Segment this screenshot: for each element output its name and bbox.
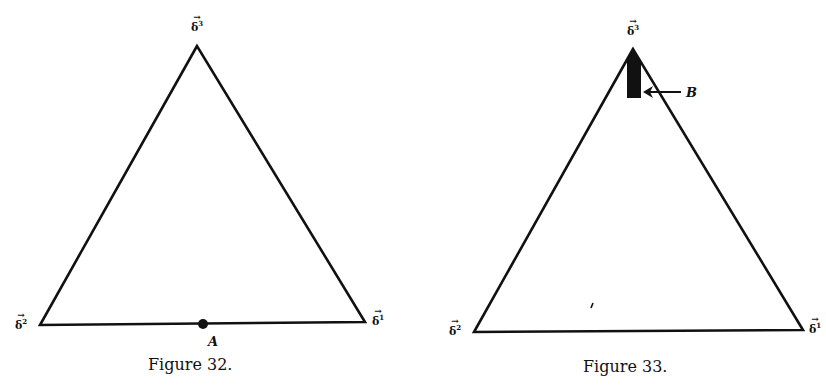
fig33-vertex-right-label: →δ1 — [805, 315, 825, 335]
figure-32-caption: Figure 32. — [148, 355, 232, 374]
stray-mark — [591, 303, 593, 308]
point-a-label: A — [208, 334, 218, 349]
fig32-vertex-right-label: →δ1 — [368, 307, 388, 327]
vertex-index: 1 — [379, 313, 384, 322]
fig33-vertex-left-label: →δ2 — [445, 317, 465, 337]
region-b-label: B — [686, 85, 697, 100]
vertex-index: 2 — [22, 317, 27, 326]
vertex-index: 3 — [198, 19, 203, 28]
fig32-vertex-left-label: →δ2 — [11, 311, 31, 331]
figure-32-triangle — [40, 46, 365, 325]
fig32-vertex-top-label: →δ3 — [187, 13, 207, 33]
vertex-index: 1 — [816, 321, 821, 330]
diagram-canvas — [0, 0, 826, 387]
figure-33-caption: Figure 33. — [583, 357, 667, 376]
point-a-marker — [198, 319, 208, 329]
vertex-index: 2 — [456, 323, 461, 332]
vertex-index: 3 — [634, 23, 639, 32]
fig33-vertex-top-label: →δ3 — [623, 17, 643, 37]
